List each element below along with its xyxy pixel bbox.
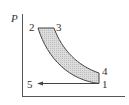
point-label-3: 3 xyxy=(56,21,62,33)
point-label-1: 1 xyxy=(102,78,108,90)
cycle-area xyxy=(38,28,99,84)
y-axis-label: P xyxy=(10,12,18,24)
pv-diagram: P 2 3 4 1 5 xyxy=(0,0,129,105)
point-label-4: 4 xyxy=(102,65,108,77)
point-label-5: 5 xyxy=(27,78,33,90)
point-label-2: 2 xyxy=(29,21,35,33)
arrow-left-icon xyxy=(37,82,43,86)
